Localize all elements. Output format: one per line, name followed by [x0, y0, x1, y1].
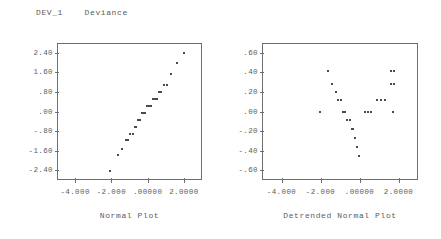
normal-plot-y-tick-label: -.80 — [15, 127, 53, 135]
normal-plot-y-tick-mark — [55, 131, 59, 132]
normal-plot-data-point — [166, 84, 168, 86]
detrended-normal-plot-x-tick-label: -2.000 — [306, 188, 335, 196]
normal-plot-y-tick-label: -1.60 — [15, 147, 53, 155]
normal-plot-y-tick-label: -2.40 — [15, 166, 53, 174]
normal-plot-y-tick-mark — [55, 53, 59, 54]
detrended-normal-plot-data-point — [319, 111, 321, 113]
detrended-normal-plot-x-axis-caption: Detrended Normal Plot — [283, 211, 396, 220]
detrended-normal-plot-x-tick-mark — [321, 178, 322, 183]
normal-plot-x-axis-caption: Normal Plot — [100, 211, 159, 220]
detrended-normal-plot-y-tick-mark — [260, 53, 264, 54]
normal-plot-data-point — [163, 84, 165, 86]
detrended-normal-plot-y-tick-mark — [260, 72, 264, 73]
normal-plot-x-tick-mark — [148, 178, 149, 183]
normal-plot-data-point — [117, 154, 119, 156]
detrended-normal-plot-x-tick-mark — [399, 178, 400, 183]
normal-plot-x-tick-label: -2.000 — [97, 188, 126, 196]
detrended-normal-plot-data-point — [390, 83, 392, 85]
detrended-normal-plot-data-point — [356, 146, 358, 148]
detrended-normal-plot-y-tick-mark — [260, 92, 264, 93]
detrended-normal-plot-x-tick-label: 2.0000 — [384, 188, 413, 196]
normal-plot-x-tick-label: -4.000 — [60, 188, 89, 196]
detrended-normal-plot-data-point — [344, 111, 346, 113]
normal-plot-data-point — [132, 133, 134, 135]
detrended-normal-plot-data-point — [340, 99, 342, 101]
detrended-normal-plot-x-tick-mark — [282, 178, 283, 183]
normal-plot-data-point — [135, 126, 137, 128]
normal-plot-y-tick-mark — [55, 151, 59, 152]
normal-plot-data-point — [121, 148, 123, 150]
detrended-normal-plot-y-tick-mark — [260, 112, 264, 113]
normal-plot-y-tick-label: .00 — [15, 108, 53, 116]
normal-plot-data-point — [183, 52, 185, 54]
normal-plot-data-point — [160, 91, 162, 93]
normal-plot-panel: 2.401.60.80.00-.80-1.60-2.40-4.000-2.000… — [0, 0, 220, 239]
detrended-normal-plot-x-tick-label: .00000 — [345, 188, 374, 196]
detrended-normal-plot-y-tick-mark — [260, 131, 264, 132]
detrended-normal-plot-data-point — [335, 91, 337, 93]
detrended-normal-plot-data-point — [380, 99, 382, 101]
detrended-normal-plot-data-point — [370, 111, 372, 113]
normal-plot-data-point — [156, 98, 158, 100]
normal-plot-data-point — [150, 105, 152, 107]
normal-plot-y-tick-mark — [55, 112, 59, 113]
detrended-normal-plot-y-tick-label: .40 — [220, 68, 258, 76]
detrended-normal-plot-y-tick-label: -.60 — [220, 166, 258, 174]
normal-plot-data-point — [170, 73, 172, 75]
normal-plot-y-tick-label: 1.60 — [15, 68, 53, 76]
normal-plot-data-point — [144, 112, 146, 114]
detrended-normal-plot-y-tick-label: .20 — [220, 88, 258, 96]
normal-plot-y-tick-mark — [55, 170, 59, 171]
detrended-normal-plot-data-point — [384, 99, 386, 101]
normal-plot-data-point — [139, 119, 141, 121]
detrended-normal-plot-panel: .60.40.20.00-.20-.40-.60-4.000-2.000.000… — [220, 0, 441, 239]
normal-plot-y-tick-label: .80 — [15, 88, 53, 96]
normal-plot-x-tick-mark — [75, 178, 76, 183]
normal-plot-frame — [57, 43, 202, 180]
normal-plot-x-tick-label: .00000 — [133, 188, 162, 196]
detrended-normal-plot-data-point — [352, 128, 354, 130]
normal-plot-data-point — [109, 170, 111, 172]
normal-plot-data-point — [176, 62, 178, 64]
normal-plot-y-tick-mark — [55, 72, 59, 73]
detrended-normal-plot-y-tick-label: -.40 — [220, 147, 258, 155]
detrended-normal-plot-y-tick-label: .60 — [220, 49, 258, 57]
normal-plot-x-tick-mark — [184, 178, 185, 183]
normal-plot-x-tick-label: 2.0000 — [169, 188, 198, 196]
detrended-normal-plot-data-point — [390, 70, 392, 72]
detrended-normal-plot-data-point — [376, 99, 378, 101]
detrended-normal-plot-x-tick-label: -4.000 — [267, 188, 296, 196]
detrended-normal-plot-data-point — [393, 70, 395, 72]
detrended-normal-plot-y-tick-mark — [260, 151, 264, 152]
detrended-normal-plot-data-point — [392, 111, 394, 113]
normal-plot-x-tick-mark — [111, 178, 112, 183]
detrended-normal-plot-data-point — [364, 111, 366, 113]
detrended-normal-plot-data-point — [331, 83, 333, 85]
detrended-normal-plot-y-tick-label: -.20 — [220, 127, 258, 135]
normal-plot-y-tick-label: 2.40 — [15, 49, 53, 57]
spss-plot-output: DEV_1 Deviance 2.401.60.80.00-.80-1.60-2… — [0, 0, 441, 239]
detrended-normal-plot-data-point — [393, 83, 395, 85]
detrended-normal-plot-data-point — [354, 137, 356, 139]
detrended-normal-plot-data-point — [358, 155, 360, 157]
detrended-normal-plot-data-point — [349, 119, 351, 121]
detrended-normal-plot-y-tick-mark — [260, 170, 264, 171]
normal-plot-y-tick-mark — [55, 92, 59, 93]
detrended-normal-plot-data-point — [327, 70, 329, 72]
detrended-normal-plot-frame — [262, 43, 418, 180]
detrended-normal-plot-data-point — [367, 111, 369, 113]
detrended-normal-plot-y-tick-label: .00 — [220, 108, 258, 116]
detrended-normal-plot-x-tick-mark — [360, 178, 361, 183]
normal-plot-data-point — [127, 139, 129, 141]
